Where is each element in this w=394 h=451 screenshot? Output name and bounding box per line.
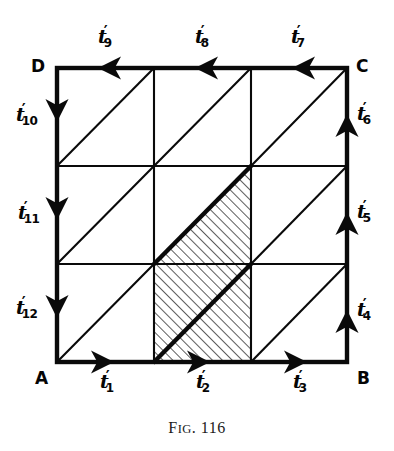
edge-label-t10: t′10 — [16, 105, 44, 124]
edge-label-t11: t′11 — [18, 203, 46, 222]
edge-label-t9-sub: 9 — [104, 36, 112, 50]
edge-label-t6: t′6 — [357, 104, 378, 123]
edge-label-t6-sub: 6 — [363, 113, 371, 127]
vertex-label-b: B — [357, 370, 370, 387]
edge-label-t12: t′12 — [16, 298, 44, 317]
edge-label-t12-sub: 12 — [22, 307, 38, 321]
figure-116: D C A B t′1 t′2 t′3 t′4 t′5 t′6 t′7 t′8 … — [0, 0, 394, 451]
edge-label-t11-sub: 11 — [24, 212, 40, 226]
edge-label-t3: t′3 — [293, 372, 314, 391]
edge-label-t7-sub: 7 — [297, 36, 305, 50]
edge-label-t8-sub: 8 — [201, 36, 209, 50]
edge-label-t8: t′8 — [195, 27, 216, 46]
edge-label-t7: t′7 — [291, 27, 312, 46]
edge-label-t9: t′9 — [98, 27, 119, 46]
edge-label-t4: t′4 — [357, 300, 378, 319]
vertex-label-a: A — [35, 370, 48, 387]
edge-label-t4-sub: 4 — [363, 309, 371, 323]
caption-smallcaps: IG — [178, 422, 192, 436]
vertex-label-c: C — [356, 58, 368, 75]
edge-label-t3-sub: 3 — [299, 381, 307, 395]
edge-label-t2-sub: 2 — [202, 381, 210, 395]
caption-prefix: F — [168, 419, 177, 436]
vertex-label-d: D — [31, 58, 45, 75]
edge-label-t1-sub: 1 — [106, 381, 114, 395]
edge-label-t5: t′5 — [357, 202, 378, 221]
figure-caption: FIG. 116 — [0, 419, 394, 437]
edge-label-t10-sub: 10 — [22, 114, 38, 128]
edge-label-t1: t′1 — [100, 372, 121, 391]
edge-label-t5-sub: 5 — [363, 211, 371, 225]
edge-label-t2: t′2 — [196, 372, 217, 391]
caption-rest: . 116 — [192, 419, 226, 436]
